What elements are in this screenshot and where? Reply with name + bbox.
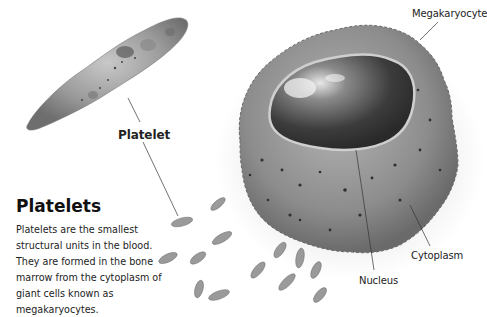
platelet-large bbox=[27, 18, 188, 130]
label-nucleus: Nucleus bbox=[359, 275, 398, 286]
label-cytoplasm: Cytoplasm bbox=[411, 250, 463, 261]
megakaryocyte-cell bbox=[215, 25, 484, 280]
caption-body: Platelets are the smallest structural un… bbox=[16, 222, 166, 317]
caption-title: Platelets bbox=[16, 196, 101, 216]
label-megakaryocyte: Megakaryocyte bbox=[412, 8, 487, 19]
label-platelet: Platelet bbox=[118, 128, 170, 142]
